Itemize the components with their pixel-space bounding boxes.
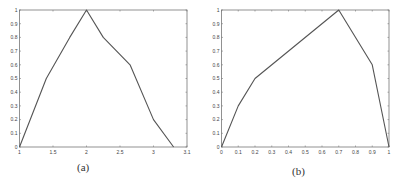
x-tick-label: 0.2 <box>252 149 259 155</box>
caption-a: (a) <box>77 161 89 173</box>
x-tick-label: 0.9 <box>369 149 376 155</box>
x-tick-label: 0.4 <box>285 149 292 155</box>
y-tick-label: 1 <box>217 7 220 13</box>
x-tick-label: 0.1 <box>235 149 242 155</box>
x-tick-label: 0.3 <box>268 149 275 155</box>
y-tick-label: 0.4 <box>213 89 220 95</box>
y-tick-label: 0 <box>217 144 220 150</box>
y-tick-label: 1 <box>15 7 18 13</box>
y-tick-label: 0.7 <box>11 48 18 54</box>
x-tick-label: 3 <box>152 149 155 155</box>
x-tick-label: 1 <box>18 149 21 155</box>
y-tick-label: 0.6 <box>11 62 18 68</box>
y-tick-label: 0.2 <box>213 116 220 122</box>
data-line <box>222 10 390 147</box>
x-tick-label: 3.1 <box>184 149 191 155</box>
caption-b: (b) <box>292 165 305 177</box>
y-tick-label: 0.1 <box>213 130 220 136</box>
y-tick-label: 0.3 <box>213 103 220 109</box>
x-tick-label: 2 <box>85 149 88 155</box>
y-tick-label: 0.4 <box>11 89 18 95</box>
x-tick-label: 0.8 <box>352 149 359 155</box>
y-tick-label: 0.3 <box>11 103 18 109</box>
y-tick-label: 0.1 <box>11 130 18 136</box>
x-tick-label: 0 <box>220 149 223 155</box>
y-tick-label: 0.6 <box>213 62 220 68</box>
chart-panel-b: 00.10.20.30.40.50.60.70.80.9100.10.20.30… <box>213 7 391 155</box>
axes-box <box>20 10 188 147</box>
x-tick-label: 1 <box>388 149 391 155</box>
y-tick-label: 0.5 <box>11 75 18 81</box>
y-tick-label: 0.9 <box>11 21 18 27</box>
data-line <box>20 10 174 147</box>
y-tick-label: 0.5 <box>213 75 220 81</box>
y-tick-label: 0.8 <box>11 34 18 40</box>
y-tick-label: 0.7 <box>213 48 220 54</box>
y-tick-label: 0.9 <box>213 21 220 27</box>
chart-panel-a: 11.522.533.100.10.20.30.40.50.60.70.80.9… <box>11 7 191 155</box>
x-tick-label: 2.5 <box>117 149 124 155</box>
y-tick-label: 0 <box>15 144 18 150</box>
x-tick-label: 0.5 <box>302 149 309 155</box>
y-tick-label: 0.2 <box>11 116 18 122</box>
x-tick-label: 0.7 <box>335 149 342 155</box>
x-tick-label: 0.6 <box>319 149 326 155</box>
axes-box <box>222 10 390 147</box>
figure-canvas: 11.522.533.100.10.20.30.40.50.60.70.80.9… <box>0 0 398 186</box>
y-tick-label: 0.8 <box>213 34 220 40</box>
x-tick-label: 1.5 <box>50 149 57 155</box>
